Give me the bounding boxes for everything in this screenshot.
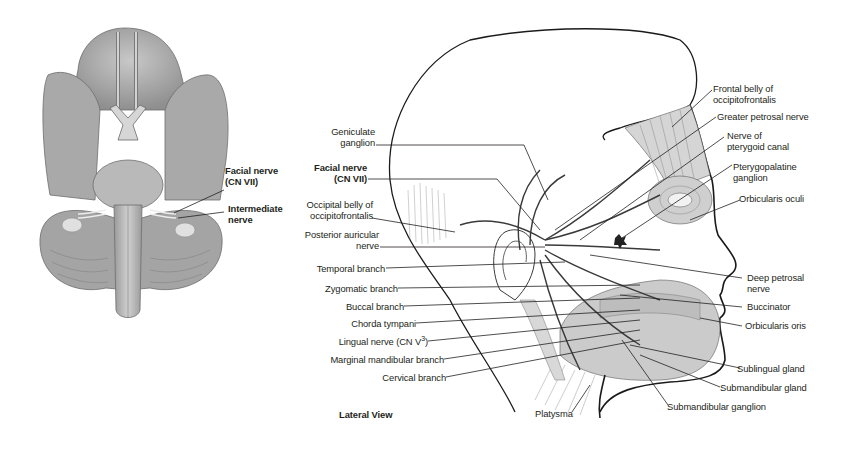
label-orbicularis-oculi: Orbicularis oculi — [739, 193, 804, 204]
label-pterygopalatine-ganglion: Pterygopalatine ganglion — [733, 161, 797, 183]
label-occipital-belly: Occipital belly of occipitofrontalis — [307, 199, 373, 221]
label-cervical-branch: Cervical branch — [382, 372, 446, 383]
label-zygomatic-branch: Zygomatic branch — [325, 283, 398, 294]
label-lingual-nerve: Lingual nerve (CN V3) — [339, 336, 428, 347]
label-platysma: Platysma — [535, 408, 573, 419]
label-sublingual-gland: Sublingual gland — [737, 363, 805, 374]
label-posterior-auricular-nerve: Posterior auricular nerve — [305, 229, 379, 251]
label-temporal-branch: Temporal branch — [317, 263, 385, 274]
label-orbicularis-oris: Orbicularis oris — [745, 320, 806, 331]
label-chorda-tympani: Chorda tympani — [351, 318, 416, 329]
label-nerve-of-pterygoid-canal: Nerve of pterygoid canal — [727, 130, 789, 152]
head-lateral-illustration: Geniculate ganglion Facial nerve (CN VII… — [0, 0, 841, 468]
label-buccal-branch: Buccal branch — [346, 301, 404, 312]
label-submandibular-gland: Submandibular gland — [720, 382, 807, 393]
label-buccinator: Buccinator — [747, 301, 790, 312]
caption-lateral-view: Lateral View — [339, 409, 392, 420]
label-marginal-mandibular-branch: Marginal mandibular branch — [330, 354, 444, 365]
label-submandibular-ganglion: Submandibular ganglion — [667, 401, 766, 412]
label-greater-petrosal-nerve: Greater petrosal nerve — [717, 111, 809, 122]
label-deep-petrosal-nerve: Deep petrosal nerve — [747, 272, 804, 294]
label-frontal-belly: Frontal belly of occipitofrontalis — [713, 83, 776, 105]
head-drawing — [0, 0, 841, 468]
label-facial-nerve: Facial nerve (CN VII) — [314, 162, 367, 184]
label-geniculate-ganglion: Geniculate ganglion — [331, 126, 375, 148]
